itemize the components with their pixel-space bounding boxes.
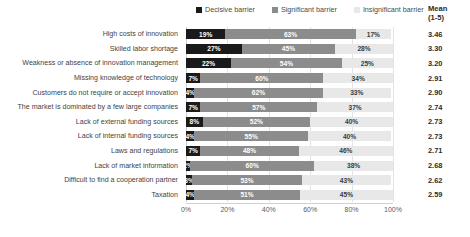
bar-row[interactable]: 19%63%17% [186,29,393,39]
bar-segment-insignificant[interactable]: 28% [335,44,393,54]
bar-value-label: 45% [340,191,353,198]
bar-value-label: 57% [252,104,265,111]
category-label: Missing knowledge of technology [0,73,182,83]
bar-segment-insignificant[interactable]: 38% [314,161,393,171]
bar-segment-decisive[interactable]: 4% [186,88,194,98]
bar-row[interactable]: 8%52%40% [186,117,393,127]
category-label: The market is dominated by a few large c… [0,102,182,112]
bar-segment-significant[interactable]: 53% [192,175,302,185]
bar-segment-insignificant[interactable]: 46% [299,146,393,156]
bar-row[interactable]: 3%53%43% [186,175,393,185]
bar-rows: 19%63%17%27%45%28%22%54%25%7%60%34%4%62%… [186,27,393,202]
bar-value-label: 25% [361,60,374,67]
bar-value-label: 48% [243,147,256,154]
x-axis-tick-label: 60% [303,206,317,213]
bar-value-label: 40% [343,133,356,140]
bar-value-label: 7% [188,75,198,82]
bar-value-label: 46% [339,147,352,154]
x-axis-tick-label: 40% [262,206,276,213]
x-axis-tick-label: 20% [220,206,234,213]
bar-segment-decisive[interactable]: 27% [186,44,242,54]
mean-value: 2.73 [428,117,454,127]
category-axis-labels: High costs of innovationSkilled labor sh… [0,27,182,202]
category-label: Taxation [0,190,182,200]
bar-segment-decisive[interactable]: 7% [186,102,200,112]
bar-segment-insignificant[interactable]: 43% [302,175,391,185]
square-marker-icon [354,7,360,13]
bar-segment-significant[interactable]: 63% [225,29,355,39]
mean-value: 2.91 [428,73,454,83]
bar-row[interactable]: 4%51%45% [186,190,393,200]
bar-row[interactable]: 7%60%34% [186,73,393,83]
bar-segment-significant[interactable]: 57% [200,102,317,112]
bar-value-label: 4% [186,133,194,140]
bar-value-label: 53% [240,177,253,184]
bar-value-label: 43% [340,177,353,184]
mean-value: 3.46 [428,29,454,39]
bar-value-label: 22% [202,60,215,67]
bar-segment-decisive[interactable]: 4% [186,131,194,141]
bar-segment-insignificant[interactable]: 17% [356,29,391,39]
category-label: Lack of market information [0,161,182,171]
category-label: Lack of external funding sources [0,117,182,127]
mean-value: 2.74 [428,102,454,112]
square-marker-icon [272,7,278,13]
bar-row[interactable]: 7%48%46% [186,146,393,156]
bar-value-label: 40% [345,118,358,125]
legend-item-decisive: Decisive barrier [196,6,255,13]
bar-row[interactable]: 4%55%40% [186,131,393,141]
bar-segment-decisive[interactable]: 8% [186,117,203,127]
bar-segment-significant[interactable]: 45% [242,44,335,54]
bar-value-label: 60% [246,162,259,169]
bar-row[interactable]: 7%57%37% [186,102,393,112]
x-axis-tick-label: 80% [345,206,359,213]
x-axis-tick-label: 100% [384,206,402,213]
category-label: Lack of internal funding sources [0,131,182,141]
category-label: Laws and regulations [0,146,182,156]
mean-column-header: Mean (1-5) [428,4,470,23]
bar-value-label: 34% [352,75,365,82]
bar-row[interactable]: 4%62%33% [186,88,393,98]
x-axis-line [186,203,393,204]
bar-segment-insignificant[interactable]: 40% [310,117,393,127]
bar-segment-insignificant[interactable]: 33% [323,88,391,98]
mean-value-column: 3.463.303.202.912.902.742.732.732.712.68… [428,27,470,202]
bar-segment-significant[interactable]: 52% [203,117,311,127]
bar-segment-decisive[interactable]: 22% [186,58,231,68]
bar-segment-decisive[interactable]: 4% [186,190,194,200]
bar-value-label: 7% [188,147,198,154]
category-label: Skilled labor shortage [0,44,182,54]
bar-segment-significant[interactable]: 51% [194,190,300,200]
bar-segment-significant[interactable]: 60% [190,161,314,171]
bar-segment-insignificant[interactable]: 25% [342,58,393,68]
mean-value: 2.73 [428,131,454,141]
bar-segment-insignificant[interactable]: 40% [308,131,391,141]
bar-segment-significant[interactable]: 48% [200,146,298,156]
bar-row[interactable]: 22%54%25% [186,58,393,68]
bar-segment-significant[interactable]: 55% [194,131,308,141]
bar-value-label: 62% [252,89,265,96]
bar-segment-decisive[interactable]: 7% [186,73,200,83]
bar-segment-insignificant[interactable]: 34% [323,73,393,83]
bar-value-label: 4% [186,89,194,96]
bar-segment-significant[interactable]: 62% [194,88,322,98]
bar-segment-decisive[interactable]: 7% [186,146,200,156]
mean-value: 2.71 [428,146,454,156]
mean-value: 2.62 [428,175,454,185]
legend-item-insignificant: Insignificant barrier [354,6,424,13]
bar-segment-insignificant[interactable]: 45% [300,190,393,200]
bar-segment-insignificant[interactable]: 37% [317,102,393,112]
bar-segment-significant[interactable]: 54% [231,58,342,68]
bar-value-label: 28% [357,45,370,52]
legend-label: Significant barrier [281,6,337,13]
bar-segment-significant[interactable]: 60% [200,73,323,83]
bar-row[interactable]: 2%60%38% [186,161,393,171]
bar-segment-decisive[interactable]: 19% [186,29,225,39]
bar-value-label: 60% [255,75,268,82]
stacked-bar-chart: Decisive barrier Significant barrier Ins… [0,0,470,237]
bar-value-label: 54% [280,60,293,67]
mean-value: 2.68 [428,161,454,171]
bar-value-label: 52% [250,118,263,125]
category-label: Difficult to find a cooperation partner [0,175,182,185]
bar-row[interactable]: 27%45%28% [186,44,393,54]
